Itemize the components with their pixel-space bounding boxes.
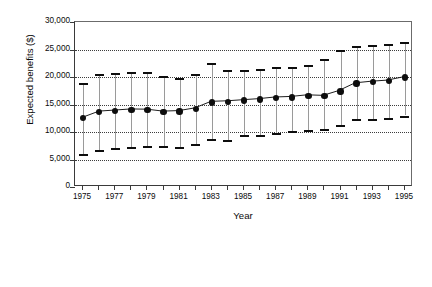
x-axis-tick-label: 1995 (387, 192, 421, 202)
x-axis-tick-label: 1983 (194, 192, 228, 202)
x-axis-tick (163, 186, 164, 190)
x-axis-tick-labels: 1975197719791981198319851987198919911993… (74, 192, 412, 206)
x-axis-tick (82, 186, 83, 190)
y-axis-tick-label: 10,000 (24, 127, 70, 135)
x-axis-tick-label: 1977 (97, 192, 131, 202)
x-axis-tick-label: 1985 (226, 192, 260, 202)
data-point-marker (193, 106, 199, 112)
x-axis-tick (211, 186, 212, 190)
data-point-marker (402, 74, 408, 80)
x-axis-tick (146, 186, 147, 190)
x-axis-tick (275, 186, 276, 190)
x-axis-tick-label: 1979 (129, 192, 163, 202)
x-axis-tick (291, 186, 292, 190)
data-point-marker (337, 88, 343, 94)
x-axis-tick (130, 186, 131, 190)
data-point-marker (241, 97, 247, 103)
x-axis-tick-label: 1989 (290, 192, 324, 202)
data-point-marker (144, 107, 150, 113)
x-axis-tick-label: 1991 (323, 192, 357, 202)
data-point-marker (160, 109, 166, 115)
x-axis-tick (356, 186, 357, 190)
data-point-marker (386, 78, 392, 84)
data-point-marker (209, 99, 215, 105)
y-axis-tick-label: 15,000 (24, 100, 70, 108)
x-axis-tick-label: 1987 (258, 192, 292, 202)
y-axis-tick-label: 0 (24, 182, 70, 190)
x-axis-tick (404, 186, 405, 190)
x-axis-title: Year (74, 210, 412, 221)
data-point-marker (370, 79, 376, 85)
x-axis-tick-label: 1975 (65, 192, 99, 202)
data-point-marker (225, 99, 231, 105)
x-axis-tick (388, 186, 389, 190)
x-axis-tick (340, 186, 341, 190)
y-axis-tick-labels: 05,00010,00015,00020,00025,00030,000 (22, 21, 70, 186)
x-axis-tick (323, 186, 324, 190)
x-axis-tick (259, 186, 260, 190)
y-axis-tick-label: 25,000 (24, 45, 70, 53)
chart-figure: Expected benefits ($) 05,00010,00015,000… (0, 0, 432, 287)
data-point-marker (257, 96, 263, 102)
data-point-marker (353, 80, 359, 86)
x-axis-tick-label: 1981 (162, 192, 196, 202)
y-axis-tick-label: 5,000 (24, 155, 70, 163)
x-axis-tick (243, 186, 244, 190)
plot-area (74, 21, 412, 186)
data-point-marker (305, 93, 311, 99)
data-point-marker (289, 94, 295, 100)
plot-inner (75, 22, 411, 185)
x-axis-tick (98, 186, 99, 190)
x-axis-tick (179, 186, 180, 190)
data-point-marker (128, 107, 134, 113)
x-axis-tick-label: 1993 (355, 192, 389, 202)
x-axis-tick (227, 186, 228, 190)
x-axis-tick (114, 186, 115, 190)
x-axis-tick (195, 186, 196, 190)
data-point-marker (176, 108, 182, 114)
x-axis-tick (372, 186, 373, 190)
y-axis-tick-label: 20,000 (24, 72, 70, 80)
x-axis-tick (307, 186, 308, 190)
y-axis-tick-label: 30,000 (24, 17, 70, 25)
